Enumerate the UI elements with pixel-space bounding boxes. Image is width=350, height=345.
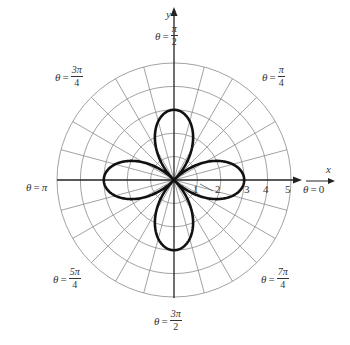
radial-tick-2: 2 (215, 183, 221, 195)
theta-symbol: θ (262, 71, 267, 83)
denominator: 4 (280, 279, 285, 290)
theta-symbol: θ (26, 181, 31, 193)
numerator: 3π (170, 309, 182, 321)
grid-radial-line (116, 79, 175, 180)
equals-sign: = (33, 181, 39, 193)
y-axis-label: y (166, 8, 171, 20)
theta-symbol: θ (155, 30, 160, 42)
angle-label-pi-over-2: θ = π 2 (155, 24, 178, 47)
numerator: 3π (71, 65, 83, 77)
grid-radial-line (91, 180, 174, 263)
radial-tick-5: 5 (285, 183, 291, 195)
y-axis-arrow-icon (171, 7, 178, 16)
grid-radial-line (174, 79, 233, 180)
radial-tick-1: 1 (193, 183, 199, 195)
fraction: 5π 4 (69, 267, 81, 290)
equals-sign: = (269, 71, 275, 83)
fraction: π 2 (171, 24, 178, 47)
theta-symbol: θ (303, 183, 308, 195)
denominator: 4 (279, 77, 284, 88)
grid-radial-line (174, 122, 275, 181)
theta-symbol: θ (261, 273, 266, 285)
numerator: π (171, 24, 178, 36)
theta-symbol: θ (154, 315, 159, 327)
grid-radial-line (73, 180, 174, 239)
axes (57, 7, 335, 298)
grid-radial-line (174, 97, 257, 180)
fraction: 3π 4 (71, 65, 83, 88)
equals-sign: = (162, 30, 168, 42)
radial-tick-3: 3 (244, 183, 250, 195)
x-axis-arrow-icon (293, 177, 302, 184)
radial-tick-4: 4 (263, 183, 269, 195)
polar-plot (0, 0, 350, 345)
denominator: 2 (173, 321, 178, 332)
theta-symbol: θ (55, 71, 60, 83)
angle-label-3pi-over-4: θ = 3π 4 (55, 65, 83, 88)
numerator: 7π (277, 267, 289, 279)
angle-label-pi-over-4: θ = π 4 (262, 65, 285, 88)
x-axis-label: x (326, 163, 331, 175)
equals-sign: = (161, 315, 167, 327)
angle-label-0: θ = 0 (303, 183, 324, 195)
denominator: 4 (74, 77, 79, 88)
fraction: 7π 4 (277, 267, 289, 290)
grid-radial-line (73, 122, 174, 181)
angle-label-5pi-over-4: θ = 5π 4 (53, 267, 81, 290)
equals-sign: = (268, 273, 274, 285)
angle-label-7pi-over-4: θ = 7π 4 (261, 267, 289, 290)
theta-symbol: θ (53, 273, 58, 285)
numerator: π (278, 65, 285, 77)
angle-label-3pi-over-2: θ = 3π 2 (154, 309, 182, 332)
grid-radial-line (174, 180, 275, 239)
grid-radial-line (174, 180, 233, 281)
equals-sign: = (62, 71, 68, 83)
denominator: 4 (72, 279, 77, 290)
equals-sign: = (60, 273, 66, 285)
denominator: 2 (172, 36, 177, 47)
grid-radial-line (116, 180, 175, 281)
equals-sign: = (310, 183, 316, 195)
numerator: 5π (69, 267, 81, 279)
grid-radial-line (91, 97, 174, 180)
fraction: π 4 (278, 65, 285, 88)
angle-label-pi: θ = π (26, 181, 47, 193)
theta-zero-arrow-icon (328, 178, 335, 184)
angle-value: π (42, 181, 48, 193)
fraction: 3π 2 (170, 309, 182, 332)
angle-value: 0 (319, 183, 325, 195)
